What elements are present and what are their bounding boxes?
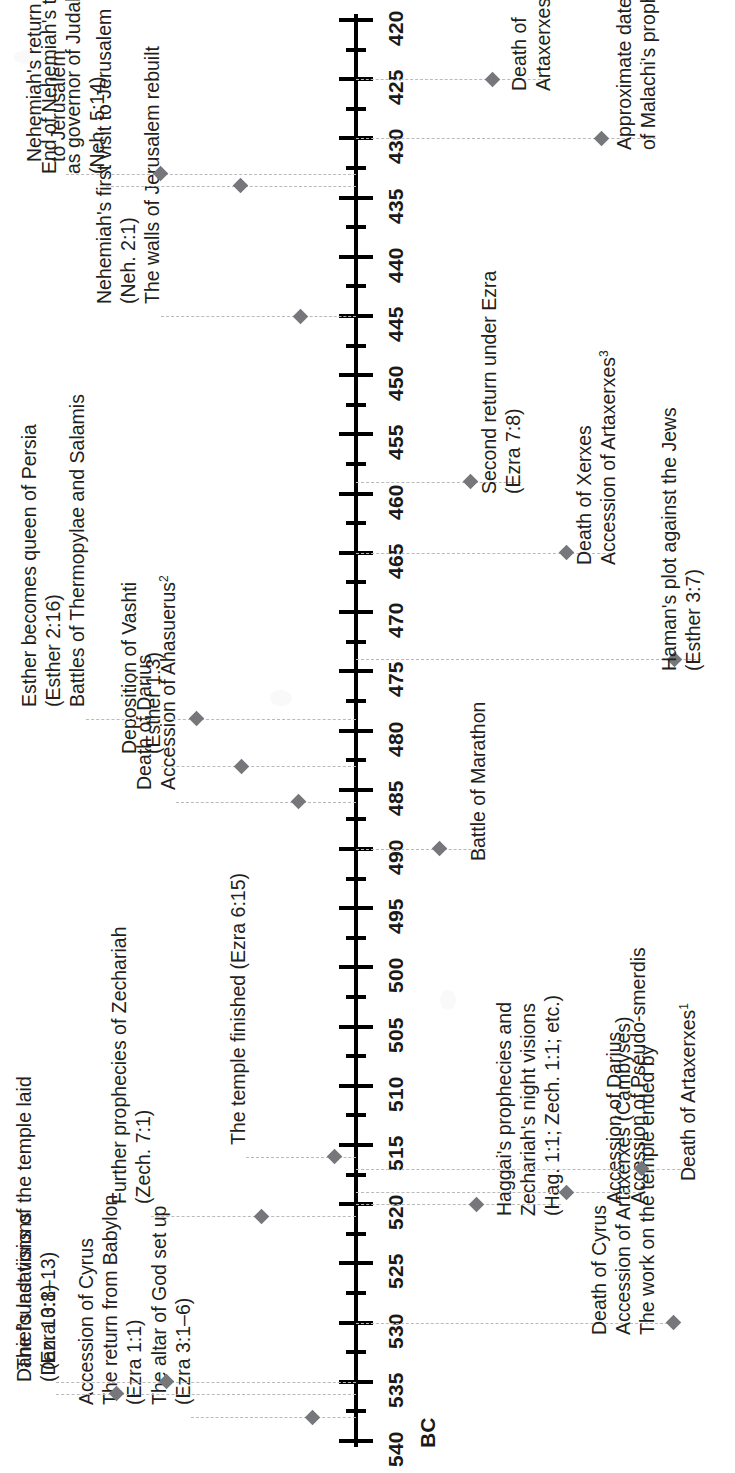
event-marker[interactable] — [431, 841, 447, 857]
event-leader-line — [356, 138, 601, 139]
axis-tick-label: 420 — [384, 10, 408, 46]
axis-tick-minor — [346, 344, 366, 348]
event-label: Esther becomes queen of Persia(Esther 2:… — [17, 394, 90, 707]
event-label-line: (Neh. 2:1) — [117, 9, 141, 304]
event-leader-line — [161, 316, 300, 317]
event-marker[interactable] — [326, 1149, 342, 1165]
axis-tick-label: 445 — [384, 306, 408, 342]
axis-tick-major — [339, 1439, 373, 1443]
axis-tick-major — [339, 492, 373, 496]
event-label-line: Second return under Ezra — [477, 271, 501, 494]
axis-tick-minor — [346, 1113, 366, 1117]
event-label-line: Battles of Thermopylae and Salamis — [66, 394, 90, 707]
event-label-line: Further prophecies of Zechariah — [107, 927, 131, 1204]
event-label: Daniel's last visions(Dan. 10:1) — [12, 1212, 60, 1382]
event-leader-line — [196, 719, 356, 720]
axis-tick-minor — [346, 107, 366, 111]
axis-tick-major — [339, 1143, 373, 1147]
axis-tick-label: 465 — [384, 543, 408, 579]
event-leader-line — [66, 174, 160, 175]
event-leader-line — [161, 766, 241, 767]
axis-tick-major — [339, 906, 373, 910]
event-label-line: (Esther 1:3) — [141, 582, 165, 754]
axis-tick-minor — [346, 1232, 366, 1236]
axis-tick-minor — [346, 995, 366, 999]
event-label-line: Death of — [507, 0, 531, 91]
axis-tick-label: 530 — [384, 1313, 408, 1349]
event-leader-line — [356, 1192, 566, 1193]
axis-tick-label: 480 — [384, 721, 408, 757]
event-marker[interactable] — [253, 1208, 269, 1224]
axis-tick-major — [339, 373, 373, 377]
event-label-line: (Neh. 5:14) — [86, 0, 110, 174]
axis-tick-label: 435 — [384, 188, 408, 224]
event-label-line: Accession of Artaxerxes3 — [596, 350, 620, 565]
event-label-line: The walls of Jerusalem rebuilt — [141, 9, 165, 304]
axis-tick-minor — [346, 699, 366, 703]
event-label-line: Haggai's prophecies and — [492, 995, 516, 1216]
event-label-line: (Ezra 1:1) — [122, 1195, 146, 1405]
event-marker[interactable] — [665, 1315, 681, 1331]
axis-tick-major — [339, 255, 373, 259]
axis-tick-major — [339, 432, 373, 436]
event-marker[interactable] — [468, 1196, 484, 1212]
axis-tick-minor — [346, 521, 366, 525]
event-marker[interactable] — [292, 308, 308, 324]
axis-tick-minor — [346, 48, 366, 52]
event-leader-line — [356, 849, 439, 850]
axis-tick-label: 540 — [384, 1431, 408, 1467]
event-label: Nehemiah's returnto Jerusalem — [22, 3, 70, 162]
event-marker[interactable] — [593, 131, 609, 147]
event-label-line: (Esther 3:7) — [681, 408, 705, 672]
event-label: The temple finished (Ezra 6:15) — [226, 873, 250, 1145]
event-marker[interactable] — [188, 711, 204, 727]
axis-tick-label: 505 — [384, 1017, 408, 1053]
axis-tick-minor — [346, 284, 366, 288]
event-marker[interactable] — [290, 794, 306, 810]
event-label-line: (Zech. 7:1) — [131, 927, 155, 1204]
event-marker[interactable] — [304, 1410, 320, 1426]
event-label-line: (Hag. 1:1; Zech. 1:1; etc.) — [541, 995, 565, 1216]
event-label-line: Deposition of Vashti — [117, 582, 141, 754]
axis-era-label: BC — [416, 1418, 440, 1448]
axis-tick-minor — [346, 580, 366, 584]
event-leader-line — [356, 1169, 641, 1170]
axis-tick-major — [339, 610, 373, 614]
event-label-line: Haman's plot against the Jews — [657, 408, 681, 672]
axis-tick-label: 475 — [384, 662, 408, 698]
axis-tick-label: 485 — [384, 780, 408, 816]
axis-tick-major — [339, 1261, 373, 1265]
axis-tick-minor — [346, 936, 366, 940]
event-leader-line — [116, 1394, 356, 1395]
event-label: Battle of Marathon — [466, 702, 490, 861]
axis-tick-major — [339, 669, 373, 673]
axis-tick-label: 450 — [384, 366, 408, 402]
axis-tick-minor — [346, 225, 366, 229]
paper-speckle — [270, 690, 292, 706]
event-leader-line — [166, 1382, 356, 1383]
axis-tick-minor — [346, 1054, 366, 1058]
axis-tick-minor — [346, 1409, 366, 1413]
axis-tick-minor — [346, 1173, 366, 1177]
axis-tick-minor — [346, 166, 366, 170]
event-label-line: (Esther 2:16) — [42, 394, 66, 707]
axis-tick-major — [339, 965, 373, 969]
axis-tick-minor — [346, 640, 366, 644]
event-label: Second return under Ezra(Ezra 7:8) — [477, 271, 525, 494]
event-marker[interactable] — [462, 474, 478, 490]
event-label-line: Daniel's last visions — [12, 1212, 36, 1382]
event-marker[interactable] — [233, 758, 249, 774]
axis-tick-minor — [346, 1350, 366, 1354]
event-label-line: The temple finished (Ezra 6:15) — [226, 873, 250, 1145]
event-label-line: (Ezra 7:8) — [501, 271, 525, 494]
event-label-line: Accession of Cyrus — [74, 1195, 98, 1405]
axis-tick-major — [339, 788, 373, 792]
event-leader-line — [356, 659, 674, 660]
event-leader-line — [241, 766, 356, 767]
axis-tick-label: 470 — [384, 602, 408, 638]
axis-tick-label: 535 — [384, 1372, 408, 1408]
event-label-line: Esther becomes queen of Persia — [17, 394, 41, 707]
event-label: Accession of CyrusThe return from Babylo… — [74, 1195, 195, 1405]
event-marker[interactable] — [232, 178, 248, 194]
event-marker[interactable] — [484, 71, 500, 87]
